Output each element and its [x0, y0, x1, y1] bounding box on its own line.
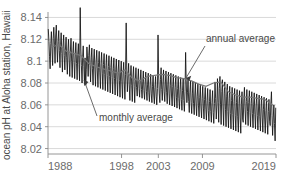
y-tick-label: 8.14 [21, 11, 42, 23]
x-tick-label: 1988 [48, 160, 72, 172]
x-tick-label: 1998 [109, 160, 133, 172]
y-tick-label: 8.02 [21, 143, 42, 155]
x-tick-label: 2003 [146, 160, 170, 172]
x-tick-labels-group: 19881998200320092019 [48, 160, 276, 172]
annotation-annual-average: annual average [206, 33, 275, 44]
x-tick-label: 2009 [190, 160, 214, 172]
y-tick-label: 8.08 [21, 77, 42, 89]
y-tick-label: 8.06 [21, 99, 42, 111]
annotation-leader-annual [186, 46, 205, 78]
x-tick-label: 2019 [252, 160, 276, 172]
y-tick-label: 8.12 [21, 33, 42, 45]
ocean-ph-chart: 8.028.048.068.088.18.128.14 198819982003… [0, 0, 285, 176]
y-tick-labels-group: 8.028.048.068.088.18.128.14 [21, 11, 42, 154]
y-tick-label: 8.1 [27, 55, 42, 67]
chart-canvas: 8.028.048.068.088.18.128.14 198819982003… [0, 0, 285, 176]
annotation-leader-monthly [84, 80, 97, 116]
y-axis-title: ocean pH at Aloha station, Hawaii [1, 10, 12, 160]
annotation-monthly-average: monthly average [99, 112, 173, 123]
y-tick-label: 8.04 [21, 121, 42, 133]
